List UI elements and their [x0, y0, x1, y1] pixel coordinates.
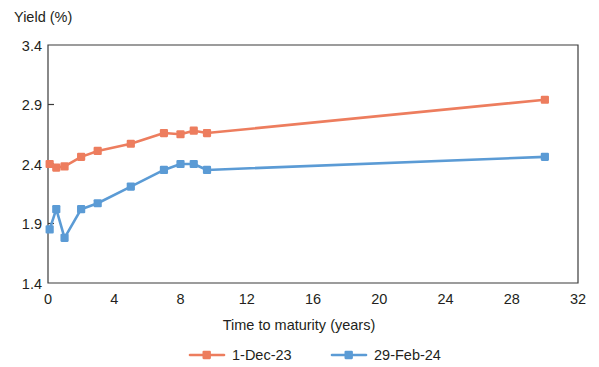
legend-marker-swatch [203, 351, 211, 359]
series-marker [541, 96, 549, 104]
series-marker [160, 129, 168, 137]
series-2 [46, 153, 549, 242]
series-marker [190, 127, 198, 135]
series-marker [127, 140, 135, 148]
series-marker [190, 160, 198, 168]
series-marker [203, 129, 211, 137]
y-tick-label: 1.4 [22, 276, 42, 292]
x-tick-label: 28 [504, 291, 520, 307]
series-marker [52, 163, 60, 171]
legend-item-2[interactable]: 29-Feb-24 [332, 347, 441, 363]
x-tick-label: 32 [570, 291, 586, 307]
y-tick-label: 2.9 [22, 97, 42, 113]
x-tick-label: 16 [305, 291, 321, 307]
x-tick-label: 4 [110, 291, 118, 307]
y-tick-label: 1.9 [22, 216, 42, 232]
series-marker [160, 166, 168, 174]
series-marker [60, 162, 68, 170]
series-marker [541, 153, 549, 161]
y-tick-label: 2.4 [22, 157, 42, 173]
series-marker [46, 225, 54, 233]
series-marker [77, 205, 85, 213]
series-marker [127, 183, 135, 191]
series-marker [176, 160, 184, 168]
chart-canvas: Yield (%) 1.41.92.42.93.4 04812162024283… [0, 0, 599, 367]
series-marker [77, 153, 85, 161]
series-line [50, 157, 545, 238]
series-marker [60, 234, 68, 242]
x-tick-label: 8 [176, 291, 184, 307]
x-tick-label: 0 [44, 291, 52, 307]
series-group [46, 96, 549, 242]
x-tick-label: 24 [437, 291, 453, 307]
legend-label: 1-Dec-23 [232, 347, 292, 363]
legend-item-1[interactable]: 1-Dec-23 [190, 347, 292, 363]
series-marker [52, 205, 60, 213]
legend-label: 29-Feb-24 [374, 347, 441, 363]
x-tick-label: 20 [371, 291, 387, 307]
series-marker [176, 130, 184, 138]
series-marker [203, 166, 211, 174]
y-tick-label: 3.4 [22, 38, 42, 54]
yield-curve-chart: Yield (%) 1.41.92.42.93.4 04812162024283… [0, 0, 599, 367]
x-tick-label: 12 [239, 291, 255, 307]
legend-marker-swatch [345, 351, 353, 359]
x-axis-title: Time to maturity (years) [223, 317, 376, 333]
chart-legend: 1-Dec-2329-Feb-24 [190, 347, 441, 363]
series-marker [94, 199, 102, 207]
x-axis-tick-group: 048121620242832 [44, 291, 586, 307]
plot-frame [48, 45, 578, 283]
series-line [50, 100, 545, 168]
series-marker [94, 147, 102, 155]
y-axis-title: Yield (%) [14, 9, 72, 25]
